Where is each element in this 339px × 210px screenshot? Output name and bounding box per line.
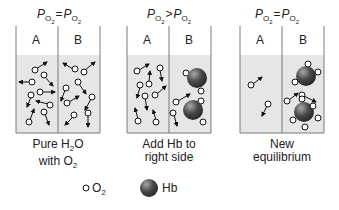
panel-1-label-b: B: [74, 33, 82, 47]
panel-1-label-a: A: [32, 33, 40, 47]
legend-hb-icon: [140, 179, 158, 197]
panel-2-label-a: A: [143, 33, 151, 47]
panel-1-caption: Pure H2O with O2: [8, 138, 108, 173]
panel-3-label-a: A: [256, 33, 264, 47]
panel-2-label-b: B: [185, 33, 193, 47]
panel-3-label-b: B: [299, 33, 307, 47]
legend-o2-label: O2: [92, 181, 106, 197]
panel-2-caption: Add Hb to right side: [119, 138, 219, 164]
diagram-canvas: [0, 0, 339, 210]
legend-hb-label: Hb: [162, 181, 177, 195]
panel-1-container: [16, 26, 100, 133]
panel-3-caption: New equilibrium: [232, 138, 332, 164]
legend-o2-icon: [83, 185, 89, 191]
